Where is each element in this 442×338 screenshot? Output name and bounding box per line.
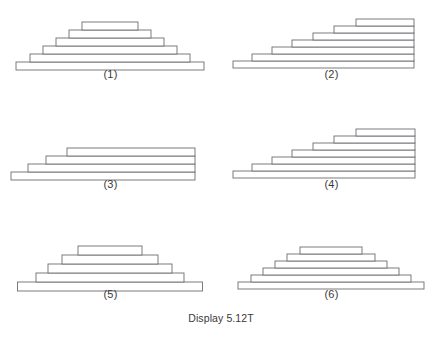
bar <box>43 46 177 54</box>
figure-label-6: (6) <box>221 288 442 300</box>
bar <box>287 254 375 261</box>
figure-label-4: (4) <box>221 178 442 190</box>
bar <box>252 164 415 171</box>
figure-plot-2 <box>221 0 442 72</box>
bar <box>334 136 415 143</box>
bar <box>313 143 415 150</box>
figure-label-2: (2) <box>221 68 442 80</box>
bar <box>263 268 399 275</box>
bar <box>46 156 195 164</box>
figure-plot-5 <box>0 220 221 292</box>
stacked-bars-2 <box>221 0 442 72</box>
bar <box>275 261 387 268</box>
bar <box>233 171 415 178</box>
bar <box>48 264 172 273</box>
bar <box>62 255 158 264</box>
bar <box>272 47 414 54</box>
figure-panel-1: (1) <box>0 0 221 100</box>
bar <box>67 148 195 156</box>
bar <box>251 275 411 282</box>
bar <box>356 129 415 136</box>
bar <box>78 246 142 255</box>
figure-panel-3: (3) <box>0 110 221 210</box>
figure-label-3: (3) <box>0 178 221 190</box>
bar <box>56 38 164 46</box>
stacked-bars-4 <box>221 110 442 182</box>
bar <box>252 54 414 61</box>
bar <box>30 54 190 62</box>
bar <box>313 33 414 40</box>
figure-plot-6 <box>221 220 442 292</box>
display-caption: Display 5.12T <box>0 312 442 324</box>
bar <box>356 19 414 26</box>
stacked-bars-1 <box>0 0 221 72</box>
figure-plot-1 <box>0 0 221 72</box>
bar <box>292 40 414 47</box>
bar <box>272 157 415 164</box>
figure-panel-4: (4) <box>221 110 442 210</box>
stacked-bars-3 <box>0 110 221 182</box>
bar <box>69 30 151 38</box>
bar <box>36 273 184 282</box>
bar <box>28 164 195 172</box>
figure-grid: (1) (2) (3) (4) (5) (6) <box>0 0 442 300</box>
figure-panel-2: (2) <box>221 0 442 100</box>
stacked-bars-6 <box>221 220 442 292</box>
figure-label-5: (5) <box>0 288 221 300</box>
figure-panel-5: (5) <box>0 220 221 320</box>
figure-plot-3 <box>0 110 221 182</box>
bar <box>82 22 138 30</box>
bar <box>233 61 414 68</box>
bar <box>334 26 414 33</box>
figure-plot-4 <box>221 110 442 182</box>
bar <box>292 150 415 157</box>
bar <box>300 247 362 254</box>
figure-label-1: (1) <box>0 68 221 80</box>
figure-panel-6: (6) <box>221 220 442 320</box>
stacked-bars-5 <box>0 220 221 292</box>
